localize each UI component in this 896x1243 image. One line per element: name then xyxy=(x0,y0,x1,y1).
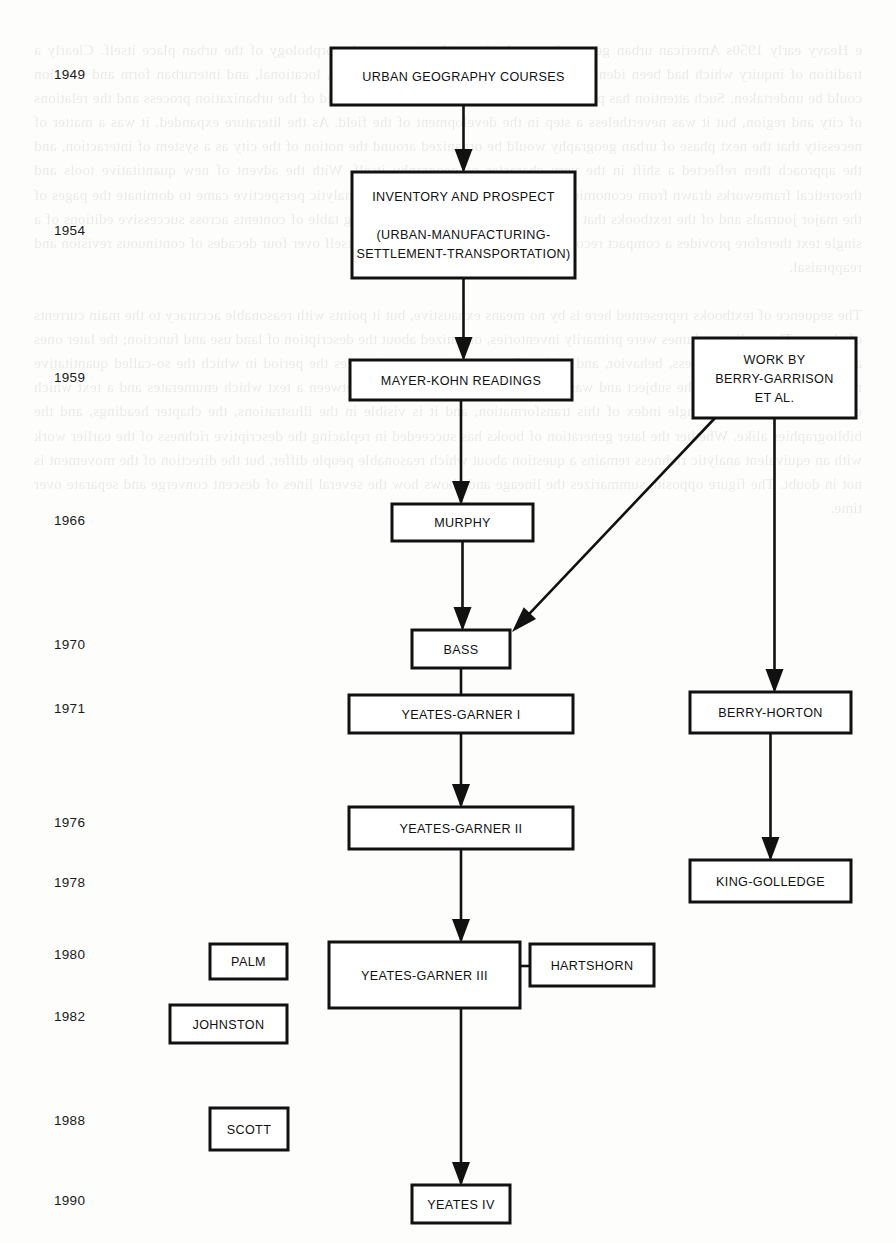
node-bass: BASS xyxy=(412,630,510,668)
textbook-lineage-flowchart: URBAN GEOGRAPHY COURSESINVENTORY AND PRO… xyxy=(0,0,896,1243)
edge-e-mayerkohn-to-murphy-arrowhead xyxy=(452,481,470,505)
node-berry-horton: BERRY-HORTON xyxy=(690,692,851,733)
node-label-work-by-berry-garrison-et-al: WORK BY xyxy=(744,353,806,367)
node-label-johnston: JOHNSTON xyxy=(193,1018,265,1032)
node-label-yeates-garner-i: YEATES-GARNER I xyxy=(401,708,520,722)
node-hartshorn: HARTSHORN xyxy=(530,944,654,986)
node-yeates-iv: YEATES IV xyxy=(412,1185,510,1223)
node-yeates-garner-ii: YEATES-GARNER II xyxy=(349,807,573,849)
node-king-golledge: KING-GOLLEDGE xyxy=(690,860,851,902)
node-work-by-berry-garrison-et-al: WORK BYBERRY-GARRISONET AL. xyxy=(693,338,856,418)
node-label-urban-geography-courses: URBAN GEOGRAPHY COURSES xyxy=(362,70,564,84)
node-johnston: JOHNSTON xyxy=(170,1005,287,1043)
nodes-layer: URBAN GEOGRAPHY COURSESINVENTORY AND PRO… xyxy=(170,48,856,1223)
node-label-work-by-berry-garrison-et-al: ET AL. xyxy=(755,391,795,405)
node-label-yeates-iv: YEATES IV xyxy=(427,1198,495,1212)
node-box-inventory-and-prospect xyxy=(352,172,575,278)
edge-e-murphy-to-bass-arrowhead xyxy=(454,607,472,631)
node-label-bass: BASS xyxy=(444,643,479,657)
node-label-hartshorn: HARTSHORN xyxy=(551,959,634,973)
node-label-yeates-garner-iii: YEATES-GARNER III xyxy=(361,969,488,983)
node-label-mayer-kohn-readings: MAYER-KOHN READINGS xyxy=(381,374,541,388)
node-label-inventory-and-prospect: INVENTORY AND PROSPECT xyxy=(372,190,555,204)
figure-page: e Heavy early 1950s American urban geogr… xyxy=(0,0,896,1243)
node-mayer-kohn-readings: MAYER-KOHN READINGS xyxy=(350,360,572,400)
edge-e-yg3-to-yeatesiv-arrowhead xyxy=(452,1162,470,1186)
edge-e-yg1-to-yg2-arrowhead xyxy=(452,784,470,808)
node-label-murphy: MURPHY xyxy=(434,516,491,530)
node-yeates-garner-iii: YEATES-GARNER III xyxy=(329,942,520,1008)
node-palm: PALM xyxy=(210,944,287,979)
node-scott: SCOTT xyxy=(210,1108,288,1150)
node-label-work-by-berry-garrison-et-al: BERRY-GARRISON xyxy=(715,372,833,386)
node-urban-geography-courses: URBAN GEOGRAPHY COURSES xyxy=(331,48,596,105)
node-murphy: MURPHY xyxy=(392,504,533,541)
edge-e-berryhorton-to-kinggolledge-arrowhead xyxy=(762,837,780,861)
node-label-inventory-and-prospect: SETTLEMENT-TRANSPORTATION) xyxy=(356,247,570,261)
node-label-berry-horton: BERRY-HORTON xyxy=(718,706,823,720)
node-yeates-garner-i: YEATES-GARNER I xyxy=(349,695,573,733)
edge-e-berrygarrison-to-berryhorton-arrowhead xyxy=(766,669,784,693)
edge-e-courses-to-inventory-arrowhead xyxy=(455,149,473,173)
node-inventory-and-prospect: INVENTORY AND PROSPECT(URBAN-MANUFACTURI… xyxy=(352,172,575,278)
node-label-scott: SCOTT xyxy=(227,1123,271,1137)
node-label-king-golledge: KING-GOLLEDGE xyxy=(716,875,825,889)
node-label-palm: PALM xyxy=(231,955,266,969)
node-label-inventory-and-prospect: (URBAN-MANUFACTURING- xyxy=(377,228,551,242)
edge-e-yg2-to-yg3-arrowhead xyxy=(452,919,470,943)
edge-e-berrygarrison-to-bass-line xyxy=(522,418,715,622)
edge-e-inventory-to-mayerkohn-arrowhead xyxy=(455,337,473,361)
node-label-yeates-garner-ii: YEATES-GARNER II xyxy=(400,822,523,836)
